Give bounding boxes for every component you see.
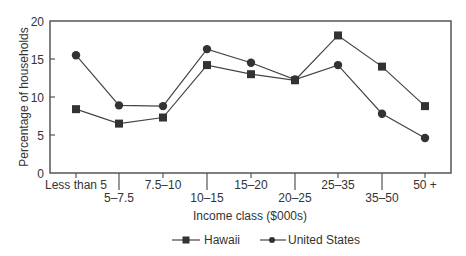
x-tick-label: 5–7.5	[104, 191, 134, 205]
square-marker-icon	[421, 102, 429, 110]
square-marker-icon	[203, 61, 211, 69]
plot-frame	[50, 21, 451, 173]
x-axis: Less than 55–7.57.5–1010–1515–2020–2525–…	[45, 173, 437, 205]
y-tick-label: 0	[37, 167, 44, 181]
circle-marker-icon	[421, 134, 429, 142]
square-marker-icon	[378, 63, 386, 71]
legend: Hawaii United States	[172, 233, 360, 247]
y-tick-label: 15	[31, 53, 45, 67]
circle-marker-icon	[159, 102, 167, 110]
series-hawaii	[72, 31, 429, 127]
circle-marker-icon	[269, 237, 275, 243]
circle-marker-icon	[334, 61, 342, 69]
circle-marker-icon	[72, 51, 80, 59]
square-marker-icon	[159, 114, 167, 122]
y-tick-label: 5	[37, 129, 44, 143]
series-group	[72, 31, 429, 142]
y-tick-label: 20	[31, 15, 45, 29]
circle-marker-icon	[378, 110, 386, 118]
legend-item-hawaii: Hawaii	[172, 233, 240, 247]
square-marker-icon	[115, 120, 123, 128]
x-tick-label: 50 +	[413, 178, 437, 192]
line-chart: 05101520 Less than 55–7.57.5–1010–1515–2…	[0, 0, 466, 256]
legend-label-hawaii: Hawaii	[204, 233, 240, 247]
legend-item-united-states: United States	[260, 233, 360, 247]
x-axis-label: Income class ($000s)	[193, 209, 307, 223]
circle-marker-icon	[115, 101, 123, 109]
x-tick-label: 15–20	[234, 178, 268, 192]
x-tick-label: Less than 5	[45, 178, 107, 192]
circle-marker-icon	[291, 75, 299, 83]
x-tick-label: 25–35	[321, 178, 355, 192]
square-marker-icon	[183, 237, 190, 244]
square-marker-icon	[247, 70, 255, 78]
x-tick-label: 35–50	[365, 191, 399, 205]
y-axis: 05101520	[31, 15, 55, 181]
circle-marker-icon	[247, 59, 255, 67]
x-tick-label: 7.5–10	[145, 178, 182, 192]
circle-marker-icon	[203, 45, 211, 53]
square-marker-icon	[72, 105, 80, 113]
legend-label-united-states: United States	[288, 233, 360, 247]
y-tick-label: 10	[31, 91, 45, 105]
series-united-states	[72, 45, 429, 142]
x-tick-label: 20–25	[278, 191, 312, 205]
y-axis-label: Percentage of households	[17, 27, 31, 166]
x-tick-label: 10–15	[190, 191, 224, 205]
square-marker-icon	[334, 31, 342, 39]
